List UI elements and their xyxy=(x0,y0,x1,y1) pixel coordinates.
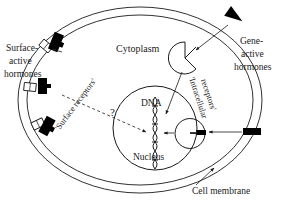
surface-active-hormones-line2: active xyxy=(9,56,32,66)
figure-canvas: Surface- active hormones Gene- active ho… xyxy=(0,0,285,200)
intracellular-receptor-upper xyxy=(168,42,196,74)
upper-receptor-to-dna-arrow xyxy=(166,72,182,114)
surface-receptor-2 xyxy=(24,82,37,91)
label-surface-receptors: 'Surface receptors' xyxy=(53,76,99,132)
surface-active-hormones-line1: Surface- xyxy=(6,43,38,53)
surface-active-hormones-line3: hormones xyxy=(4,69,42,79)
label-dna: DNA xyxy=(141,98,162,108)
gene-active-hormone-top xyxy=(224,6,246,26)
bound-hormone-in-receptor xyxy=(196,130,206,135)
gene-active-hormone-right xyxy=(243,128,261,135)
gene-active-hormones-line2: active xyxy=(241,49,264,59)
cell-signalling-diagram: Surface- active hormones Gene- active ho… xyxy=(0,0,285,200)
label-question-mark: ? xyxy=(110,106,115,118)
label-cytoplasm: Cytoplasm xyxy=(116,43,160,54)
label-nucleus: Nucleus xyxy=(133,152,164,162)
label-gene-active-hormones: Gene- active hormones xyxy=(234,36,272,72)
surface-active-hormone-2 xyxy=(38,78,51,94)
gene-active-hormones-line3: hormones xyxy=(234,62,272,72)
gene-active-hormones-line1: Gene- xyxy=(240,36,263,46)
cell-membrane-leader-line xyxy=(196,168,214,185)
label-cell-membrane: Cell membrane xyxy=(192,186,250,196)
label-intracellular-receptors: 'Intracellular receptors' xyxy=(187,76,219,120)
intracellular-receptor-lower xyxy=(175,118,206,148)
label-surface-active-hormones: Surface- active hormones xyxy=(4,43,42,79)
